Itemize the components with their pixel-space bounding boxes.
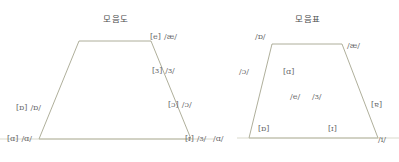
vowel-charts-canvas: 모음도 [e]/æ/ [ɜ]/ɜ/ [ɔ]/ɔ/ [ɒ]/ɒ/ [ɑ]/ɑ/ [… xyxy=(0,0,399,162)
left-label-turned-script-a: [ɒ]/ɒ/ xyxy=(16,104,41,112)
right-label-ae: /æ/ xyxy=(347,42,360,50)
left-label-script-a-slash: /ɑ/ xyxy=(21,134,32,143)
left-label-small-cap-i-slash: /ɜ/ xyxy=(197,134,206,143)
left-label-open-o-slash: /ɔ/ xyxy=(182,100,192,109)
right-label-turned-script-a-2: [ɒ] xyxy=(258,125,272,133)
right-label-small-cap-i: [ɪ] xyxy=(328,125,340,133)
left-label-script-a-2-slash: /ɑ/ xyxy=(213,134,224,143)
left-label-script-a-2: /ɑ/ xyxy=(213,135,224,143)
right-label-e-slash: /e/ xyxy=(290,92,300,101)
left-label-small-cap-i: [ɪ]/ɜ/ xyxy=(185,135,206,143)
left-label-open-o-bracket: [ɔ] xyxy=(168,100,179,109)
right-label-i: /i/ xyxy=(378,136,386,144)
right-label-ae-right-bracket: [ɐ] xyxy=(371,100,382,109)
right-label-open-o-slash: /ɔ/ xyxy=(239,67,249,76)
left-label-small-cap-i-bracket: [ɪ] xyxy=(185,134,194,143)
left-label-ae-bracket: [e] xyxy=(150,32,161,41)
right-label-turned-script-a-slash: /ɒ/ xyxy=(255,32,266,41)
left-label-script-a-bracket: [ɑ] xyxy=(7,134,18,143)
left-label-schwa-bracket: [ɜ] xyxy=(152,66,162,75)
right-label-turned-script-a-2-bracket: [ɒ] xyxy=(258,124,269,133)
left-label-schwa-slash: /ɜ/ xyxy=(165,66,174,75)
right-label-script-a-bracket: [ɑ] xyxy=(283,67,294,76)
left-label-script-a: [ɑ]/ɑ/ xyxy=(7,135,32,143)
left-label-turned-script-a-bracket: [ɒ] xyxy=(16,103,27,112)
left-label-schwa: [ɜ]/ɜ/ xyxy=(152,67,175,75)
right-label-open-o: /ɔ/ xyxy=(239,68,249,76)
left-label-open-o: [ɔ]/ɔ/ xyxy=(168,101,192,109)
right-label-small-cap-i-bracket: [ɪ] xyxy=(328,124,337,133)
right-label-e: /e/ xyxy=(290,93,300,101)
left-trapezoid-shape xyxy=(39,41,191,139)
right-label-turned-script-a: /ɒ/ xyxy=(255,33,266,41)
left-chart-title: 모음도 xyxy=(78,12,154,24)
right-label-schwa: /ɜ/ xyxy=(312,93,321,101)
left-label-ae-slash: /æ/ xyxy=(164,32,177,41)
right-label-ae-right: [ɐ] xyxy=(371,101,385,109)
right-chart-title: 모음표 xyxy=(272,12,344,24)
right-label-schwa-slash: /ɜ/ xyxy=(312,92,321,101)
left-label-ae: [e]/æ/ xyxy=(150,33,177,41)
right-label-script-a: [ɑ] xyxy=(283,68,297,76)
right-label-i-slash: /i/ xyxy=(378,135,386,144)
right-label-ae-slash: /æ/ xyxy=(347,41,360,50)
left-label-turned-script-a-slash: /ɒ/ xyxy=(30,103,41,112)
